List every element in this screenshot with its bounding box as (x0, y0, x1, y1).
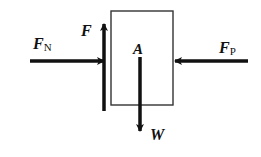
label-f: F (80, 22, 92, 39)
label-w: W (150, 126, 166, 143)
label-fp: FP (218, 39, 236, 57)
free-body-diagram: FN F FP W A (0, 0, 261, 157)
label-fn: FN (32, 35, 52, 53)
block-a (111, 11, 173, 105)
label-body-a: A (132, 41, 143, 57)
